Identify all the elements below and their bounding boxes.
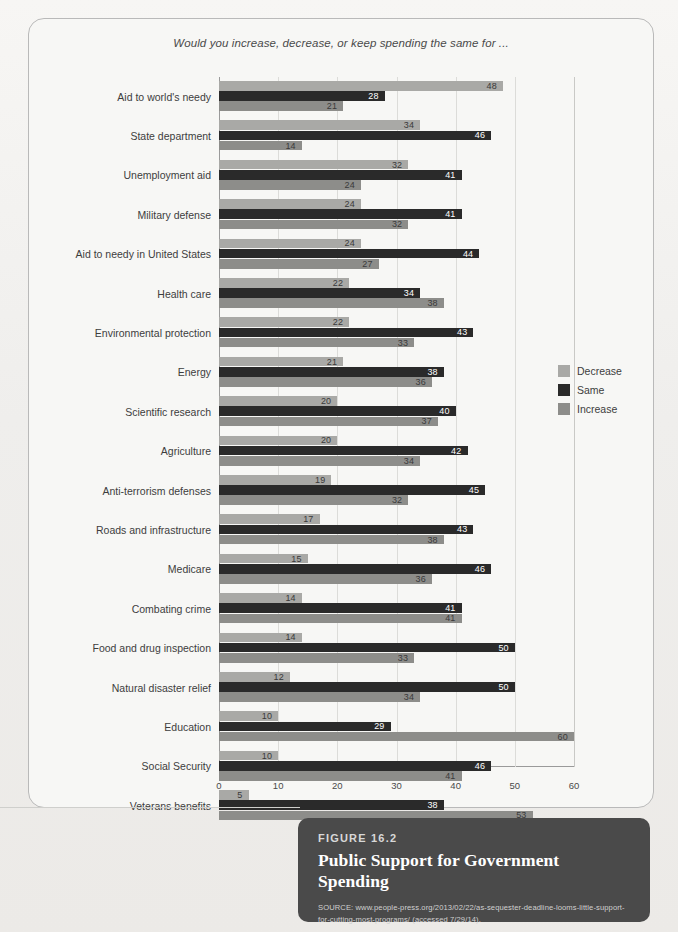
bar-decrease[interactable]: 10 bbox=[219, 711, 278, 721]
bar-increase[interactable]: 34 bbox=[219, 456, 420, 466]
bar-increase[interactable]: 38 bbox=[219, 298, 444, 308]
bar-increase[interactable]: 37 bbox=[219, 417, 438, 427]
bar-decrease[interactable]: 48 bbox=[219, 81, 503, 91]
bar-decrease[interactable]: 19 bbox=[219, 475, 331, 485]
category-label: Natural disaster relief bbox=[112, 682, 211, 694]
bar-slot: 41 bbox=[219, 771, 574, 781]
bar-increase[interactable]: 27 bbox=[219, 259, 379, 269]
bar-same[interactable]: 40 bbox=[219, 406, 456, 416]
figure-title: Public Support for Government Spending bbox=[318, 850, 632, 891]
bar-increase[interactable]: 32 bbox=[219, 495, 408, 505]
bar-decrease[interactable]: 20 bbox=[219, 396, 337, 406]
bar-value-label: 32 bbox=[392, 495, 402, 505]
bar-slot: 22 bbox=[219, 317, 574, 327]
category-label: Health care bbox=[157, 288, 211, 300]
bar-increase[interactable]: 33 bbox=[219, 338, 414, 348]
bar-value-label: 46 bbox=[475, 564, 485, 574]
bar-same[interactable]: 38 bbox=[219, 367, 444, 377]
bar-decrease[interactable]: 32 bbox=[219, 160, 408, 170]
bar-increase[interactable]: 32 bbox=[219, 220, 408, 230]
category-label: Food and drug inspection bbox=[93, 642, 212, 654]
bar-same[interactable]: 34 bbox=[219, 288, 420, 298]
bar-slot: 10 bbox=[219, 711, 574, 721]
bar-value-label: 44 bbox=[463, 249, 473, 259]
bar-decrease[interactable]: 5 bbox=[219, 790, 249, 800]
bar-decrease[interactable]: 24 bbox=[219, 199, 361, 209]
bar-same[interactable]: 46 bbox=[219, 131, 491, 141]
bar-decrease[interactable]: 14 bbox=[219, 593, 302, 603]
bar-same[interactable]: 38 bbox=[219, 800, 444, 810]
bar-value-label: 46 bbox=[475, 130, 485, 140]
bar-same[interactable]: 46 bbox=[219, 761, 491, 771]
bar-slot: 33 bbox=[219, 338, 574, 348]
bar-same[interactable]: 44 bbox=[219, 249, 479, 259]
bar-decrease[interactable]: 34 bbox=[219, 120, 420, 130]
bar-slot: 48 bbox=[219, 81, 574, 91]
legend-swatch-same bbox=[558, 384, 570, 396]
bar-decrease[interactable]: 22 bbox=[219, 278, 349, 288]
bar-decrease[interactable]: 24 bbox=[219, 239, 361, 249]
bar-increase[interactable]: 38 bbox=[219, 535, 444, 545]
figure-number: FIGURE 16.2 bbox=[318, 832, 632, 844]
bar-same[interactable]: 42 bbox=[219, 446, 468, 456]
bar-increase[interactable]: 24 bbox=[219, 180, 361, 190]
bar-same[interactable]: 41 bbox=[219, 170, 462, 180]
bar-same[interactable]: 50 bbox=[219, 643, 515, 653]
bar-slot: 24 bbox=[219, 199, 574, 209]
legend-item-decrease: Decrease bbox=[558, 362, 622, 379]
bar-value-label: 41 bbox=[445, 603, 455, 613]
bar-slot: 36 bbox=[219, 377, 574, 387]
bar-same[interactable]: 45 bbox=[219, 485, 485, 495]
legend-item-increase: Increase bbox=[558, 400, 622, 417]
category-label: Aid to needy in United States bbox=[76, 248, 211, 260]
bar-slot: 24 bbox=[219, 180, 574, 190]
bar-group-row: Natural disaster relief125034 bbox=[219, 668, 574, 707]
bar-slot: 12 bbox=[219, 672, 574, 682]
bar-increase[interactable]: 36 bbox=[219, 574, 432, 584]
bar-same[interactable]: 43 bbox=[219, 328, 473, 338]
bar-slot: 42 bbox=[219, 446, 574, 456]
bar-slot: 41 bbox=[219, 170, 574, 180]
bar-increase[interactable]: 14 bbox=[219, 141, 302, 151]
bar-value-label: 17 bbox=[303, 514, 313, 524]
bar-slot: 41 bbox=[219, 603, 574, 613]
bar-increase[interactable]: 33 bbox=[219, 653, 414, 663]
bar-decrease[interactable]: 10 bbox=[219, 751, 278, 761]
bar-same[interactable]: 43 bbox=[219, 525, 473, 535]
bar-decrease[interactable]: 21 bbox=[219, 357, 343, 367]
bar-slot: 34 bbox=[219, 288, 574, 298]
bar-value-label: 33 bbox=[398, 338, 408, 348]
bar-group-row: Aid to world's needy482821 bbox=[219, 77, 574, 116]
bar-increase[interactable]: 41 bbox=[219, 614, 462, 624]
bar-slot: 21 bbox=[219, 101, 574, 111]
bar-same[interactable]: 29 bbox=[219, 722, 391, 732]
category-label: Agriculture bbox=[161, 445, 211, 457]
bar-group-row: Unemployment aid324124 bbox=[219, 156, 574, 195]
bar-same[interactable]: 46 bbox=[219, 564, 491, 574]
bar-same[interactable]: 50 bbox=[219, 682, 515, 692]
bar-same[interactable]: 28 bbox=[219, 91, 385, 101]
bar-increase[interactable]: 41 bbox=[219, 771, 462, 781]
bar-slot: 46 bbox=[219, 564, 574, 574]
page-divider-line bbox=[0, 807, 300, 808]
bar-same[interactable]: 41 bbox=[219, 603, 462, 613]
bar-decrease[interactable]: 22 bbox=[219, 317, 349, 327]
bar-decrease[interactable]: 17 bbox=[219, 514, 320, 524]
bar-increase[interactable]: 21 bbox=[219, 101, 343, 111]
bar-value-label: 12 bbox=[274, 672, 284, 682]
bar-increase[interactable]: 60 bbox=[219, 732, 574, 742]
bar-decrease[interactable]: 12 bbox=[219, 672, 290, 682]
bar-slot: 19 bbox=[219, 475, 574, 485]
bar-decrease[interactable]: 15 bbox=[219, 554, 308, 564]
bar-value-label: 38 bbox=[427, 800, 437, 810]
bar-slot: 38 bbox=[219, 535, 574, 545]
bar-decrease[interactable]: 14 bbox=[219, 633, 302, 643]
bar-slot: 10 bbox=[219, 751, 574, 761]
legend-label-increase: Increase bbox=[577, 403, 617, 415]
bar-slot: 38 bbox=[219, 298, 574, 308]
bar-increase[interactable]: 36 bbox=[219, 377, 432, 387]
bar-increase[interactable]: 34 bbox=[219, 692, 420, 702]
category-label: Scientific research bbox=[125, 406, 211, 418]
bar-same[interactable]: 41 bbox=[219, 209, 462, 219]
bar-decrease[interactable]: 20 bbox=[219, 436, 337, 446]
